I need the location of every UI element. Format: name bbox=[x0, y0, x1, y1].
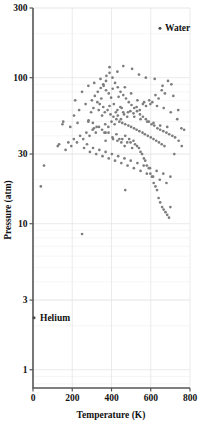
data-point bbox=[133, 127, 136, 130]
data-point bbox=[157, 197, 160, 200]
data-point bbox=[146, 120, 149, 123]
data-point bbox=[87, 84, 90, 87]
data-point bbox=[98, 149, 101, 152]
data-point bbox=[130, 126, 133, 129]
data-point bbox=[107, 131, 110, 134]
data-point bbox=[118, 138, 121, 141]
y-tick-label: 100 bbox=[13, 73, 28, 83]
data-point bbox=[124, 134, 127, 137]
data-point bbox=[124, 189, 127, 192]
data-point bbox=[93, 95, 96, 98]
data-point bbox=[128, 138, 131, 141]
data-point bbox=[117, 155, 120, 158]
data-point bbox=[107, 92, 110, 95]
data-point bbox=[98, 103, 101, 106]
data-point bbox=[79, 134, 82, 137]
data-point bbox=[164, 211, 167, 214]
data-point bbox=[101, 155, 104, 158]
data-point bbox=[145, 105, 148, 108]
data-point bbox=[170, 83, 173, 86]
data-point bbox=[151, 101, 154, 104]
y-tick-label: 10 bbox=[18, 219, 28, 229]
data-point bbox=[103, 111, 106, 114]
data-point bbox=[153, 78, 156, 81]
data-point bbox=[133, 115, 136, 118]
data-point bbox=[145, 172, 148, 175]
data-point bbox=[69, 126, 72, 129]
data-point bbox=[156, 127, 159, 130]
annotation-label: Water bbox=[165, 23, 191, 33]
data-point bbox=[111, 76, 114, 79]
data-point bbox=[120, 107, 123, 110]
data-point bbox=[164, 92, 167, 95]
data-point bbox=[152, 182, 155, 185]
data-point bbox=[111, 87, 114, 90]
data-point bbox=[112, 115, 115, 118]
data-point bbox=[100, 97, 103, 100]
data-point bbox=[108, 105, 111, 108]
data-point bbox=[40, 185, 43, 188]
data-point bbox=[117, 95, 120, 98]
annotated-data-point bbox=[158, 27, 161, 30]
data-point bbox=[115, 118, 118, 121]
data-point bbox=[136, 162, 139, 165]
data-point bbox=[131, 147, 134, 150]
data-point bbox=[139, 113, 142, 116]
data-point bbox=[121, 138, 124, 141]
data-point bbox=[116, 86, 119, 89]
data-point bbox=[153, 124, 156, 127]
data-point bbox=[129, 159, 132, 162]
x-tick-label: 600 bbox=[144, 393, 159, 403]
data-point bbox=[62, 120, 65, 123]
data-point bbox=[107, 126, 110, 129]
data-point bbox=[108, 71, 111, 74]
data-point bbox=[64, 149, 67, 152]
data-point bbox=[138, 73, 141, 76]
data-point bbox=[110, 120, 113, 123]
data-point bbox=[43, 164, 46, 167]
data-point bbox=[106, 109, 109, 112]
data-point bbox=[104, 151, 107, 154]
data-point bbox=[70, 145, 73, 148]
data-point bbox=[177, 139, 180, 142]
annotated-data-point bbox=[33, 316, 36, 319]
data-point bbox=[129, 141, 132, 144]
y-tick-label: 1 bbox=[23, 365, 28, 375]
data-point bbox=[133, 167, 136, 170]
data-point bbox=[76, 122, 79, 125]
data-point bbox=[109, 113, 112, 116]
data-point bbox=[74, 99, 77, 102]
data-point bbox=[160, 89, 163, 92]
data-point bbox=[83, 147, 86, 150]
data-point bbox=[131, 67, 134, 70]
data-point bbox=[126, 141, 129, 144]
data-point bbox=[91, 128, 94, 131]
data-point bbox=[119, 90, 122, 93]
data-point bbox=[122, 65, 125, 68]
data-point bbox=[118, 120, 121, 123]
data-point bbox=[161, 84, 164, 87]
data-point bbox=[165, 182, 168, 185]
data-point bbox=[113, 123, 116, 126]
x-tick-label: 0 bbox=[31, 393, 36, 403]
data-point bbox=[165, 131, 168, 134]
data-point bbox=[120, 141, 123, 144]
data-point bbox=[121, 122, 124, 125]
data-point bbox=[177, 109, 180, 112]
data-point bbox=[89, 151, 92, 154]
data-point bbox=[99, 78, 102, 81]
data-point bbox=[72, 138, 75, 141]
data-point bbox=[176, 118, 179, 121]
data-point bbox=[173, 153, 176, 156]
data-point bbox=[113, 103, 116, 106]
data-point bbox=[136, 99, 139, 102]
data-point bbox=[108, 66, 111, 69]
data-point bbox=[139, 118, 142, 121]
data-point bbox=[166, 214, 169, 217]
data-point bbox=[123, 157, 126, 160]
data-point bbox=[95, 126, 98, 129]
data-point bbox=[124, 123, 127, 126]
data-point bbox=[116, 70, 119, 73]
data-point bbox=[130, 92, 133, 95]
data-point bbox=[127, 101, 130, 104]
